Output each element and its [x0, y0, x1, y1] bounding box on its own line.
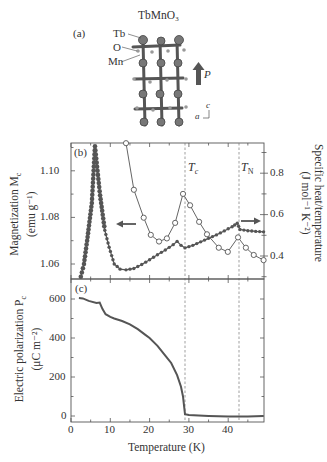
c-tick-600: 600: [49, 292, 66, 304]
atom-label-tb: Tb: [113, 27, 125, 39]
magnetization-series: [79, 144, 266, 279]
axis-a-label: a: [195, 111, 200, 121]
c-tick-200: 200: [49, 370, 66, 382]
x-tick-0: 0: [68, 423, 74, 435]
x-axis-label: Temperature (K): [128, 441, 205, 453]
panel-c-axes: [71, 279, 264, 422]
tn-label: TN: [241, 160, 253, 176]
polarization-label: P: [204, 68, 211, 80]
b-left-ylabel: Magnetization Mc (emu g⁻¹): [8, 154, 38, 274]
x-tick-20: 20: [143, 423, 154, 435]
x-tick-40: 40: [222, 423, 233, 435]
b-left-tick-108: 1.08: [40, 210, 59, 222]
panel-b-label: (b): [74, 146, 87, 158]
b-left-tick-110: 1.10: [40, 164, 59, 176]
compound-title: TbMnO₃: [138, 9, 179, 21]
x-tick-30: 30: [183, 423, 194, 435]
c-tick-0: 0: [61, 409, 67, 421]
polarization-arrow-icon: [193, 62, 205, 85]
right-axis-arrow-icon: [241, 218, 261, 225]
polarization-series: [79, 298, 264, 417]
b-right-tick-04: 0.4: [270, 249, 284, 261]
b-right-ylabel: Specific heat/temperature (J mol⁻¹ K⁻²): [299, 133, 325, 273]
figure-canvas: [0, 0, 327, 462]
atom-label-o: O: [113, 41, 121, 53]
tc-label: Tc: [188, 160, 198, 176]
b-right-tick-08: 0.8: [270, 166, 284, 178]
panel-c-label: (c): [75, 282, 87, 294]
c-tick-400: 400: [49, 331, 66, 343]
c-ylabel: Electric polarization Pc (μC m⁻²): [13, 279, 43, 419]
axis-c-label: c: [206, 100, 210, 110]
b-left-tick-106: 1.06: [40, 257, 59, 269]
left-axis-arrow-icon: [116, 221, 136, 228]
panel-a-label: (a): [73, 27, 85, 39]
atom-label-mn: Mn: [108, 55, 123, 67]
x-tick-10: 10: [104, 423, 115, 435]
axes-orientation-icon: [203, 110, 209, 118]
b-right-tick-06: 0.6: [270, 207, 284, 219]
